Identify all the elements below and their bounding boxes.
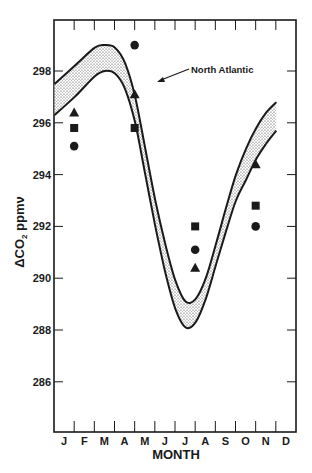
data-markers	[69, 41, 261, 272]
band-lower-curve	[55, 71, 277, 328]
month-label: D	[282, 435, 290, 447]
month-label: J	[182, 435, 188, 447]
triangle-marker-icon	[69, 107, 79, 116]
month-label: F	[81, 435, 88, 447]
month-label: A	[121, 435, 129, 447]
north-atlantic-band	[55, 45, 277, 328]
month-label: M	[140, 435, 149, 447]
month-label: J	[162, 435, 168, 447]
x-axis-title: MONTH	[152, 447, 200, 462]
y-tick-label: 286	[33, 376, 51, 388]
north-atlantic-annotation: North Atlantic	[157, 64, 253, 82]
co2-seasonal-chart: 286288290292294296298 JFMAMJJASOND North…	[0, 0, 312, 473]
annotation-arrow-line	[161, 69, 189, 80]
month-label: M	[100, 435, 109, 447]
circle-marker-icon	[191, 245, 200, 254]
y-tick-label: 292	[33, 220, 51, 232]
y-axis-title-unit: ppmν	[12, 196, 27, 234]
month-label: N	[262, 435, 270, 447]
circle-marker-icon	[130, 41, 139, 50]
circle-marker-icon	[70, 142, 79, 151]
month-label: J	[61, 435, 67, 447]
arrowhead-icon	[157, 77, 165, 82]
y-axis-title: ΔCO2 ppmν	[12, 196, 29, 268]
y-tick-label: 290	[33, 272, 51, 284]
x-month-labels: JFMAMJJASOND	[61, 435, 290, 447]
square-marker-icon	[252, 202, 260, 210]
square-marker-icon	[131, 124, 139, 132]
y-tick-label: 298	[33, 65, 51, 77]
y-tick-label: 296	[33, 117, 51, 129]
y-tick-label: 288	[33, 324, 51, 336]
y-tick-labels: 286288290292294296298	[33, 65, 52, 388]
annotation-label: North Atlantic	[191, 64, 253, 75]
month-label: O	[241, 435, 250, 447]
y-tick-label: 294	[33, 169, 52, 181]
month-label: S	[222, 435, 229, 447]
circle-marker-icon	[251, 222, 260, 231]
y-axis-title-main: ΔCO	[12, 239, 27, 268]
month-label: A	[201, 435, 209, 447]
triangle-marker-icon	[190, 263, 200, 272]
square-marker-icon	[70, 124, 78, 132]
square-marker-icon	[191, 222, 199, 230]
